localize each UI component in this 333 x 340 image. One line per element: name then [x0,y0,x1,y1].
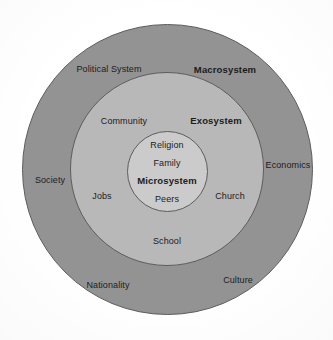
label-family: Family [153,158,180,169]
label-religion: Religion [150,140,183,151]
ecological-systems-diagram: Political System Macrosystem Society Eco… [0,0,333,340]
label-macrosystem: Macrosystem [194,64,256,75]
label-microsystem: Microsystem [137,175,197,186]
label-school: School [153,236,181,247]
label-exosystem: Exosystem [190,115,242,126]
label-community: Community [101,116,147,127]
label-jobs: Jobs [92,191,111,202]
label-society: Society [35,175,65,186]
label-church: Church [215,191,245,202]
label-political-system: Political System [76,64,141,75]
label-culture: Culture [223,275,253,286]
label-economics: Economics [266,160,311,171]
label-nationality: Nationality [86,280,129,291]
label-peers: Peers [155,194,179,205]
